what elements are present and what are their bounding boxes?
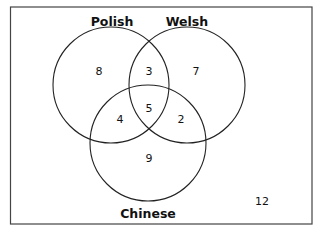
region-polish-welsh: 3 <box>146 65 153 78</box>
region-welsh-only: 7 <box>193 65 200 78</box>
region-polish-chinese: 4 <box>117 113 124 126</box>
chinese-label: Chinese <box>120 206 176 221</box>
region-welsh-chinese: 2 <box>178 113 185 126</box>
region-chinese-only: 9 <box>146 152 153 165</box>
universal-set-frame <box>11 7 313 224</box>
polish-label: Polish <box>91 14 134 29</box>
venn-diagram: Polish Welsh Chinese 8 3 7 5 4 2 9 12 <box>0 0 320 232</box>
region-outside: 12 <box>255 195 269 208</box>
region-polish-only: 8 <box>96 65 103 78</box>
welsh-label: Welsh <box>166 14 208 29</box>
region-all-three: 5 <box>146 102 153 115</box>
